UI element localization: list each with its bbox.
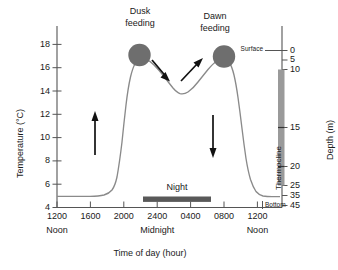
- x-axis-title: Time of day (hour): [85, 249, 215, 258]
- dusk-feeding-label-line2: feeding: [110, 19, 170, 28]
- dawn-ascent-arrow: [181, 58, 203, 81]
- y-tick-label-8: 8: [30, 156, 50, 165]
- x-sublabel-noon-end: Noon: [239, 226, 275, 235]
- night-label: Night: [152, 183, 202, 192]
- depth-tick-label-15: 15: [290, 123, 300, 132]
- surface-label: Surface: [228, 46, 263, 53]
- depth-tick-label-25: 25: [290, 181, 300, 190]
- x-tick-label-1200a: 1200: [39, 212, 75, 221]
- ascent-arrow: [92, 111, 99, 155]
- depth-axis-title: Depth (m): [326, 120, 335, 160]
- night-bar: [143, 197, 211, 202]
- y-axis-inner-ticks: [57, 44, 62, 184]
- descent-arrow: [210, 115, 217, 158]
- y-tick-label-12: 12: [30, 110, 50, 119]
- x-tick-label-2400: 2400: [139, 212, 175, 221]
- depth-tick-label-35: 35: [290, 191, 300, 200]
- depth-tick-label-20: 20: [290, 162, 300, 171]
- y-tick-label-16: 16: [30, 63, 50, 72]
- y-tick-label-6: 6: [30, 180, 50, 189]
- y-axis-title: Temperature (°C): [16, 109, 25, 178]
- dawn-feeding-label-line1: Dawn: [188, 12, 242, 21]
- y-tick-label-18: 18: [30, 40, 50, 49]
- dusk-descent-arrow: [152, 60, 170, 82]
- x-tick-label-2000: 2000: [106, 212, 142, 221]
- depth-tick-label-10: 10: [290, 65, 300, 74]
- x-sublabel-midnight: Midnight: [131, 226, 183, 235]
- thermocline-label: Thermocline: [275, 146, 283, 190]
- dusk-feeding-marker: [128, 44, 150, 66]
- x-tick-label-0400: 0400: [173, 212, 209, 221]
- x-axis-ticks: [57, 202, 257, 208]
- depth-tick-label-45: 45: [290, 201, 300, 210]
- bottom-label: Bottom: [265, 202, 286, 209]
- x-sublabel-noon-start: Noon: [39, 226, 75, 235]
- x-tick-label-1600: 1600: [72, 212, 108, 221]
- y-tick-label-10: 10: [30, 133, 50, 142]
- y-tick-label-14: 14: [30, 87, 50, 96]
- x-tick-label-1200b: 1200: [239, 212, 275, 221]
- dawn-feeding-label-line2: feeding: [185, 24, 245, 33]
- y-axis-ticks: [53, 44, 58, 207]
- x-tick-label-0800: 0800: [206, 212, 242, 221]
- depth-tick-label-5: 5: [290, 55, 295, 64]
- dusk-feeding-label-line1: Dusk: [113, 7, 167, 16]
